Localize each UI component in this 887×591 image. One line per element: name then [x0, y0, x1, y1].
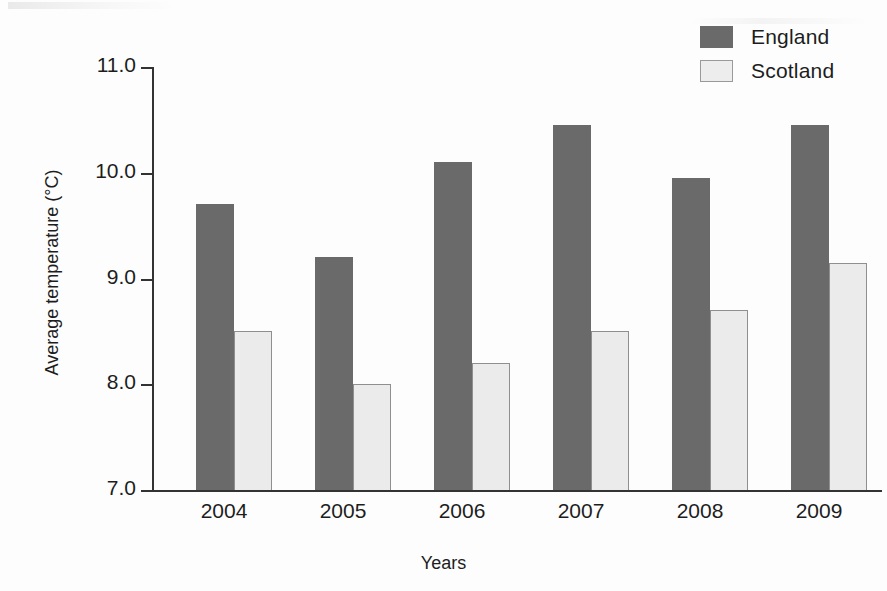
bar-scotland-2005 — [353, 384, 391, 490]
y-tick-mark — [141, 67, 152, 69]
y-tick-mark — [141, 384, 152, 386]
y-tick-label: 10.0 — [95, 159, 136, 183]
bar-scotland-2009 — [829, 263, 867, 490]
bar-england-2005 — [315, 257, 353, 490]
bar-group-2005: 2005 — [293, 67, 393, 490]
bar-england-2008 — [672, 178, 710, 490]
bar-group-2004: 2004 — [174, 67, 274, 490]
x-tick-label-2009: 2009 — [759, 499, 879, 523]
x-tick-label-2004: 2004 — [164, 499, 284, 523]
y-tick-label: 8.0 — [107, 370, 136, 394]
legend-swatch-england-icon — [700, 26, 733, 48]
bar-group-2006: 2006 — [412, 67, 512, 490]
bar-england-2006 — [434, 162, 472, 490]
x-tick-label-2008: 2008 — [640, 499, 760, 523]
y-tick-mark — [141, 279, 152, 281]
x-axis-title: Years — [0, 553, 887, 574]
x-tick-label-2007: 2007 — [521, 499, 641, 523]
bar-england-2009 — [791, 125, 829, 490]
y-tick-label: 9.0 — [107, 265, 136, 289]
x-axis-line — [152, 490, 882, 492]
bar-scotland-2008 — [710, 310, 748, 490]
y-axis-title: Average temperature (°C) — [42, 123, 63, 423]
bar-england-2004 — [196, 204, 234, 490]
bar-scotland-2006 — [472, 363, 510, 490]
y-tick-mark — [141, 173, 152, 175]
y-tick-mark — [141, 490, 152, 492]
bar-group-2009: 2009 — [769, 67, 869, 490]
bar-group-2008: 2008 — [650, 67, 750, 490]
y-axis-line — [152, 67, 154, 491]
bar-group-2007: 2007 — [531, 67, 631, 490]
legend-label-england: England — [751, 25, 829, 49]
legend-item-england: England — [700, 22, 880, 52]
bar-chart-figure: England Scotland Average temperature (°C… — [0, 0, 887, 591]
bar-england-2007 — [553, 125, 591, 490]
scan-artifact — [8, 2, 178, 9]
x-tick-label-2006: 2006 — [402, 499, 522, 523]
plot-area: 11.010.09.08.07.0 2004200520062007200820… — [152, 67, 882, 491]
bar-scotland-2004 — [234, 331, 272, 490]
bar-scotland-2007 — [591, 331, 629, 490]
y-tick-label: 11.0 — [97, 53, 136, 77]
x-tick-label-2005: 2005 — [283, 499, 403, 523]
y-tick-label: 7.0 — [107, 476, 136, 500]
